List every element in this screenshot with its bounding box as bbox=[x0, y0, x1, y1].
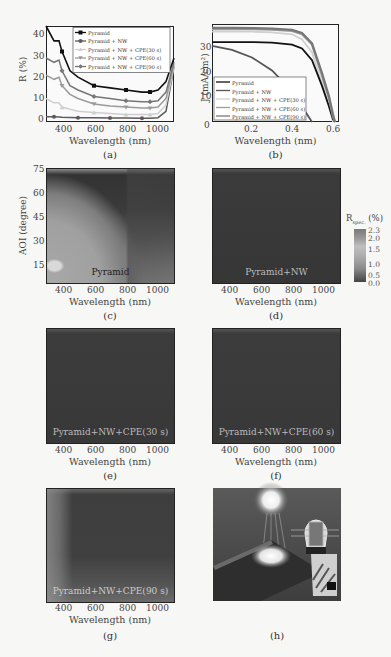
panel-b-label: (b) bbox=[212, 149, 339, 160]
panel-e-xtick: 400 bbox=[55, 445, 72, 455]
panel-g-xtick: 800 bbox=[119, 603, 136, 613]
panel-c-label: (c) bbox=[46, 310, 174, 321]
colorbar-title: Rspec. (%) bbox=[346, 213, 383, 225]
legend-entry: Pyramid bbox=[88, 29, 161, 38]
panel-c-xlabel: Wavelength (nm) bbox=[46, 296, 174, 307]
legend-entry: Pyramid + NW + CPE(60 s) bbox=[232, 105, 305, 114]
panel-a-ytick-10: 10 bbox=[33, 93, 44, 103]
panel-b-ytick-30: 30 bbox=[200, 42, 211, 52]
panel-f-label: (f) bbox=[212, 470, 340, 481]
panel-d-xtick: 1000 bbox=[312, 285, 335, 295]
panel-g-xtick: 1000 bbox=[146, 603, 169, 613]
heatmap-label: Pyramid+NW+CPE(90 s) bbox=[47, 586, 174, 596]
heatmap-label: Pyramid+NW+CPE(30 s) bbox=[47, 427, 174, 437]
panel-g-label: (g) bbox=[46, 630, 174, 641]
colorbar-gradient bbox=[354, 229, 366, 282]
panel-a-ytick-30: 30 bbox=[33, 51, 44, 61]
panel-a-xtick: 1000 bbox=[146, 124, 169, 134]
heatmap-label: Pyramid+NW+CPE(60 s) bbox=[213, 427, 340, 437]
heatmap-cpe60: Pyramid+NW+CPE(60 s) bbox=[212, 328, 341, 444]
heatmap-pyramid-nw: Pyramid+NW bbox=[212, 168, 341, 284]
panel-d-xlabel: Wavelength (nm) bbox=[212, 296, 340, 307]
panel-c-ytick: 75 bbox=[33, 164, 44, 174]
legend-entry: Pyramid + NW + CPE(90 s) bbox=[232, 113, 305, 122]
panel-a-label: (a) bbox=[46, 149, 174, 160]
panel-b-xlabel: Wavelength (nm) bbox=[212, 135, 339, 146]
legend-entry: Pyramid + NW + CPE(90 s) bbox=[88, 63, 161, 72]
panel-a-ylabel: R (%) bbox=[18, 52, 28, 82]
panel-d-xtick: 400 bbox=[221, 285, 238, 295]
legend-entry: Pyramid bbox=[232, 79, 305, 88]
panel-e-xtick: 800 bbox=[119, 445, 136, 455]
heatmap-pyramid: Pyramid bbox=[46, 168, 175, 284]
panel-c-xtick: 1000 bbox=[146, 285, 169, 295]
heatmap-cpe90: Pyramid+NW+CPE(90 s) bbox=[46, 488, 175, 603]
panel-d-xtick: 800 bbox=[285, 285, 302, 295]
panel-e-xtick: 600 bbox=[87, 445, 104, 455]
legend-entry: Pyramid + NW + CPE(60 s) bbox=[88, 54, 161, 63]
panel-f-xtick: 800 bbox=[285, 445, 302, 455]
heatmap-cpe30: Pyramid+NW+CPE(30 s) bbox=[46, 328, 175, 444]
solar-cell-illustration bbox=[213, 488, 341, 601]
legend-entry: Pyramid + NW + CPE(30 s) bbox=[232, 96, 305, 105]
panel-b-xtick: 0.6 bbox=[326, 124, 340, 134]
heatmap-label: Pyramid+NW bbox=[213, 267, 340, 277]
panel-a-legend-entries: Pyramid Pyramid + NW Pyramid + NW + CPE(… bbox=[88, 29, 161, 72]
panel-a-xtick: 600 bbox=[87, 124, 104, 134]
panel-a-xlabel: Wavelength (nm) bbox=[46, 135, 174, 146]
panel-c-xtick: 600 bbox=[87, 285, 104, 295]
panel-b-xtick: 0.2 bbox=[244, 124, 258, 134]
panel-c-ytick: 60 bbox=[33, 188, 44, 198]
panel-a-xtick: 800 bbox=[119, 124, 136, 134]
panel-f-xtick: 400 bbox=[221, 445, 238, 455]
panel-d-xtick: 600 bbox=[253, 285, 270, 295]
panel-c-ytick: 15 bbox=[33, 260, 44, 270]
panel-c-ytick: 45 bbox=[33, 212, 44, 222]
panel-e-xlabel: Wavelength (nm) bbox=[46, 456, 174, 467]
panel-a-ytick-40: 40 bbox=[33, 29, 44, 39]
panel-b-ytick-20: 20 bbox=[200, 67, 211, 77]
panel-h-label: (h) bbox=[213, 630, 341, 641]
panel-g-xlabel: Wavelength (nm) bbox=[46, 614, 174, 625]
legend-entry: Pyramid + NW bbox=[232, 88, 305, 97]
panel-e-label: (e) bbox=[46, 470, 174, 481]
panel-c-ytick: 30 bbox=[33, 236, 44, 246]
panel-f-xtick: 600 bbox=[253, 445, 270, 455]
panel-e-xtick: 1000 bbox=[146, 445, 169, 455]
panel-f-xtick: 1000 bbox=[312, 445, 335, 455]
legend-entry: Pyramid + NW bbox=[88, 37, 161, 46]
panel-c-xtick: 400 bbox=[55, 285, 72, 295]
panel-c-ylabel: AOI (degree) bbox=[18, 185, 28, 255]
panel-a-ytick-0: 0 bbox=[38, 114, 44, 124]
panel-b-xtick: 0.4 bbox=[285, 124, 299, 134]
panel-g-xtick: 400 bbox=[55, 603, 72, 613]
panel-f-xlabel: Wavelength (nm) bbox=[212, 456, 340, 467]
panel-d-label: (d) bbox=[212, 310, 340, 321]
panel-b-legend-entries: Pyramid Pyramid + NW Pyramid + NW + CPE(… bbox=[232, 79, 305, 122]
panel-b-ytick-10: 10 bbox=[200, 91, 211, 101]
panel-g-xtick: 600 bbox=[87, 603, 104, 613]
hand-icon bbox=[311, 554, 337, 596]
panel-a-xtick: 400 bbox=[55, 124, 72, 134]
panel-a-ytick-20: 20 bbox=[33, 72, 44, 82]
panel-c-xtick: 800 bbox=[119, 285, 136, 295]
legend-entry: Pyramid + NW + CPE(30 s) bbox=[88, 46, 161, 55]
sun-icon bbox=[253, 482, 289, 518]
heatmap-label: Pyramid bbox=[47, 267, 174, 277]
panel-b-ytick-0: 0 bbox=[204, 120, 210, 130]
